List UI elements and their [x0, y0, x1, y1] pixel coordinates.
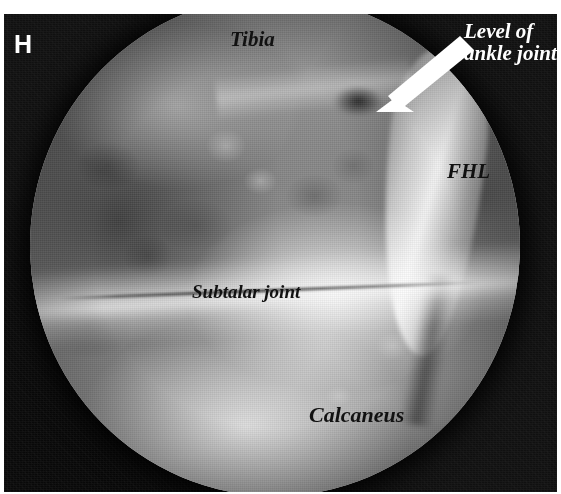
panel-letter: H — [14, 32, 33, 57]
tissue-base-layer — [30, 14, 520, 492]
scope-field-of-view — [30, 14, 520, 492]
figure-root: H Tibia Level of ankle joint FHL Subtala… — [0, 0, 561, 494]
arthroscopy-photograph: H Tibia Level of ankle joint FHL Subtala… — [4, 14, 557, 492]
